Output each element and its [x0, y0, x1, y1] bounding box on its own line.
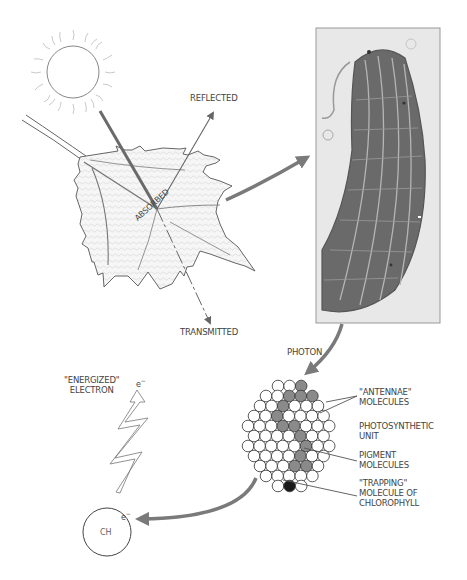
antenna-molecule [242, 440, 254, 452]
energized-electron-label: "ENERGIZED" ELECTRON [64, 375, 119, 395]
trapping-label: "TRAPPING" MOLECULE OF CHLOROPHYLL [359, 478, 419, 508]
pigment-label: PIGMENT MOLECULES [359, 450, 409, 470]
photosynthetic-unit-cluster [242, 380, 335, 492]
photosynthetic-unit-label: PHOTOSYNTHETIC UNIT [359, 421, 434, 441]
antenna-molecule [242, 420, 254, 432]
transmitted-label: TRANSMITTED [180, 327, 238, 337]
antenna-molecule [307, 470, 319, 482]
photosynthesis-diagram: REFLECTED ABSORBED TRANSMITTED PHOTON "E… [0, 0, 467, 580]
leaf-illustration [22, 115, 255, 289]
electron-transfer-arrow [140, 478, 256, 519]
energized-electron-zigzag [110, 390, 148, 493]
acceptor-label: CH [100, 528, 111, 538]
electron-symbol-top: e− [136, 376, 146, 390]
antenna-molecule [254, 460, 266, 472]
sun-icon [31, 30, 115, 114]
antenna-molecule [272, 480, 284, 492]
chloroplast-micrograph [316, 28, 440, 323]
antenna-molecule [248, 450, 260, 462]
antenna-molecule [295, 480, 307, 492]
leaf-to-chloroplast-arrow [226, 158, 306, 200]
photon-label: PHOTON [287, 347, 322, 357]
antennae-label: "ANTENNAE" MOLECULES [359, 387, 411, 407]
antenna-molecule [260, 470, 272, 482]
electron-symbol-bottom: e− [121, 509, 131, 523]
reflected-label: REFLECTED [190, 93, 238, 103]
